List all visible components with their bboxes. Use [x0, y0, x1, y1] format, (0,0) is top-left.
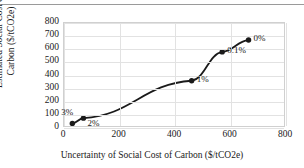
- y-axis-tick-label: 400: [33, 70, 59, 80]
- gridline-horizontal: [64, 89, 284, 90]
- y-axis-tick-label: 300: [33, 83, 59, 93]
- gridline-horizontal: [64, 102, 284, 103]
- y-axis-tick-label: 200: [33, 96, 59, 106]
- data-point-label: 2%: [87, 119, 99, 128]
- x-axis-tick-label: 400: [159, 130, 189, 140]
- gridline-vertical: [286, 23, 287, 126]
- data-point-marker: [246, 37, 251, 42]
- gridline-horizontal: [64, 49, 284, 50]
- gridline-vertical: [175, 23, 176, 126]
- x-axis-tick-label: 800: [270, 130, 300, 140]
- data-point-marker: [189, 78, 194, 83]
- chart-figure: Estimated Social Cost of Carbon ($/tCO2e…: [0, 0, 304, 168]
- x-axis-tick-label: 0: [48, 130, 78, 140]
- data-point-label: 0%: [254, 34, 266, 43]
- y-axis-tick-label: 500: [33, 56, 59, 66]
- gridline-vertical: [120, 23, 121, 126]
- data-point-marker: [70, 121, 75, 126]
- gridline-horizontal: [64, 36, 284, 37]
- y-axis-tick-label: 800: [33, 17, 59, 27]
- data-point-label: 3%: [61, 108, 73, 117]
- data-point-marker: [81, 115, 86, 120]
- plot-area: [63, 22, 285, 127]
- y-axis-tick-label: 700: [33, 30, 59, 40]
- gridline-horizontal: [64, 115, 284, 116]
- gridline-vertical: [231, 23, 232, 126]
- x-axis-tick-label: 200: [104, 130, 134, 140]
- y-axis-tick-label: 600: [33, 43, 59, 53]
- gridline-horizontal: [64, 76, 284, 77]
- gridline-horizontal: [64, 62, 284, 63]
- gridline-horizontal: [64, 23, 284, 24]
- data-point-label: 0.1%: [227, 46, 246, 55]
- x-axis-title: Uncertainty of Social Cost of Carbon ($/…: [0, 150, 304, 160]
- data-point-label: 1%: [197, 75, 209, 84]
- y-axis-tick-label: 100: [33, 109, 59, 119]
- x-axis-tick-label: 600: [215, 130, 245, 140]
